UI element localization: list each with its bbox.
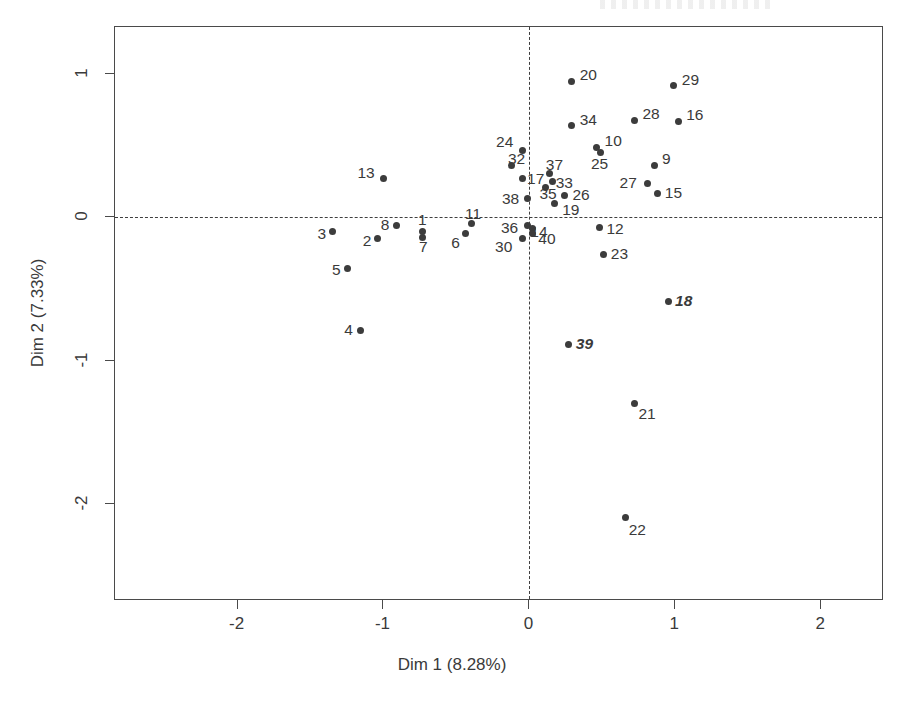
- y-axis-tick: [105, 503, 114, 504]
- data-point-label: 28: [642, 106, 659, 122]
- data-point-label: 17: [527, 171, 544, 187]
- x-axis-tick-label: -2: [229, 614, 244, 634]
- data-point-label: 19: [562, 202, 579, 218]
- data-point-label: 39: [576, 336, 593, 352]
- data-point: [568, 122, 575, 129]
- data-point-label: 3: [317, 226, 326, 242]
- data-point: [519, 235, 526, 242]
- data-point-label: 24: [496, 134, 513, 150]
- data-point-label: 13: [357, 165, 374, 181]
- data-point: [568, 78, 575, 85]
- scan-artifact: [600, 0, 770, 9]
- data-point-label: 10: [605, 133, 622, 149]
- data-point-label: 18: [675, 293, 692, 309]
- x-axis-tick-label: 1: [670, 614, 679, 634]
- data-point: [393, 222, 400, 229]
- data-point-label: 1: [418, 212, 427, 228]
- data-point-label: 37: [546, 157, 563, 173]
- data-point: [344, 265, 351, 272]
- data-point: [519, 175, 526, 182]
- data-point-label: 38: [502, 191, 519, 207]
- data-point-label: 20: [580, 67, 597, 83]
- data-point: [561, 192, 568, 199]
- data-point: [651, 162, 658, 169]
- data-point-label: 23: [611, 246, 628, 262]
- data-point-label: 21: [638, 406, 655, 422]
- data-point-label: 16: [686, 107, 703, 123]
- y-axis-tick: [105, 216, 114, 217]
- data-point-label: 15: [665, 185, 682, 201]
- data-point-label: 12: [606, 221, 623, 237]
- y-axis-tick-label: -1: [72, 352, 92, 367]
- x-axis-tick: [820, 600, 821, 609]
- y-axis-tick: [105, 360, 114, 361]
- data-point-label: 34: [580, 112, 597, 128]
- data-point-label: 5: [332, 262, 341, 278]
- data-point: [631, 400, 638, 407]
- x-axis-tick-label: -1: [375, 614, 390, 634]
- data-point: [675, 118, 682, 125]
- scatter-plot-figure: 2029342816102493225371317332735152638191…: [0, 0, 904, 706]
- data-point-label: 30: [495, 239, 512, 255]
- data-point: [654, 190, 661, 197]
- x-axis-label: Dim 1 (8.28%): [0, 655, 904, 675]
- y-axis-label: Dim 2 (7.33%): [28, 259, 48, 368]
- data-point-label: 25: [591, 156, 608, 172]
- y-axis-tick: [105, 73, 114, 74]
- data-point-label: 40: [538, 231, 555, 247]
- x-axis-tick: [382, 600, 383, 609]
- x-axis-tick-label: 0: [524, 614, 533, 634]
- data-point-label: 22: [629, 522, 646, 538]
- x-axis-tick-label: 2: [816, 614, 825, 634]
- vertical-reference-line: [529, 27, 530, 599]
- data-point-label: 32: [508, 151, 525, 167]
- plot-area: 2029342816102493225371317332735152638191…: [114, 26, 883, 600]
- data-point-label: 33: [556, 175, 573, 191]
- data-point: [670, 82, 677, 89]
- horizontal-reference-line: [115, 217, 882, 218]
- x-axis-tick: [528, 600, 529, 609]
- data-point: [565, 341, 572, 348]
- data-point: [665, 298, 672, 305]
- data-point: [380, 175, 387, 182]
- data-point: [644, 180, 651, 187]
- y-axis-tick-label: 1: [72, 69, 92, 78]
- data-point-label: 6: [451, 235, 460, 251]
- data-point: [529, 230, 536, 237]
- data-point-label: 8: [381, 217, 390, 233]
- x-axis-tick: [237, 600, 238, 609]
- data-point: [357, 327, 364, 334]
- data-point-label: 4: [344, 322, 353, 338]
- data-point: [600, 251, 607, 258]
- data-point-label: 9: [662, 151, 671, 167]
- data-point: [631, 117, 638, 124]
- y-axis-tick-label: 0: [72, 212, 92, 221]
- data-point-label: 29: [682, 72, 699, 88]
- data-point: [596, 224, 603, 231]
- x-axis-tick: [674, 600, 675, 609]
- data-point-label: 36: [501, 220, 518, 236]
- data-point: [374, 235, 381, 242]
- data-point-label: 7: [419, 239, 428, 255]
- data-point: [329, 228, 336, 235]
- data-point-label: 2: [363, 233, 372, 249]
- data-point: [551, 200, 558, 207]
- data-point: [462, 230, 469, 237]
- y-axis-tick-label: -2: [72, 495, 92, 510]
- data-point-label: 11: [465, 206, 481, 222]
- data-point-label: 27: [620, 175, 637, 191]
